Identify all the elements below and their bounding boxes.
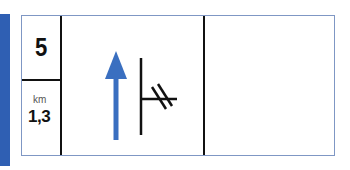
distance-unit: km <box>33 94 46 105</box>
accent-bar <box>0 14 10 166</box>
route-sign-panel: 5 km 1,3 <box>21 15 335 156</box>
empty-panel-section <box>205 16 335 155</box>
route-diagram <box>62 16 203 155</box>
distance-cell: km 1,3 <box>22 81 60 156</box>
distance-value: 1,3 <box>28 107 50 127</box>
exit-number: 5 <box>35 32 47 63</box>
exit-number-cell: 5 <box>22 16 60 81</box>
exit-info-column: 5 km 1,3 <box>22 16 62 155</box>
junction-crossing-icon <box>62 16 203 157</box>
